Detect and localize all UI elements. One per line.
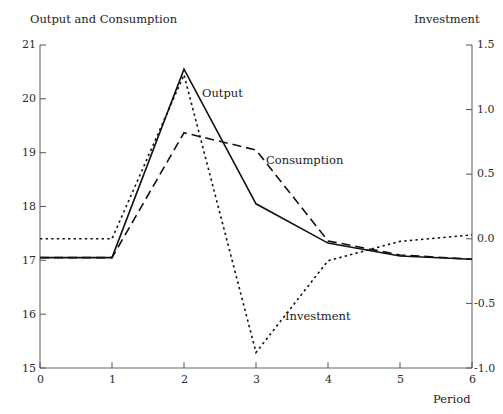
left-tick-16: 16 (22, 309, 36, 320)
right-axis-ticks (466, 45, 472, 368)
axis-lines (40, 45, 472, 368)
x-tick-4: 4 (325, 374, 332, 385)
series-label-consumption: Consumption (266, 155, 343, 167)
x-axis-ticks (40, 362, 472, 368)
x-tick-2: 2 (181, 374, 188, 385)
left-tick-19: 19 (22, 147, 36, 158)
x-axis-title: Period (433, 394, 471, 406)
chart-figure: Output and Consumption Investment (0, 0, 503, 414)
left-tick-20: 20 (22, 93, 36, 104)
left-tick-17: 17 (22, 255, 36, 266)
right-tick-neg-0-5: -0.5 (474, 298, 495, 309)
chart-canvas (0, 0, 503, 414)
left-tick-15: 15 (22, 363, 36, 374)
right-tick-1-5: 1.5 (477, 39, 495, 50)
x-tick-0: 0 (37, 374, 44, 385)
x-tick-5: 5 (397, 374, 404, 385)
right-tick-0-5: 0.5 (477, 168, 495, 179)
series-line-consumption (40, 133, 472, 260)
left-tick-18: 18 (22, 201, 36, 212)
x-tick-6: 6 (469, 374, 476, 385)
right-tick-neg-1-0: -1.0 (474, 363, 495, 374)
x-tick-1: 1 (109, 374, 116, 385)
right-tick-1-0: 1.0 (477, 104, 495, 115)
series-line-output (40, 69, 472, 259)
right-tick-0-0: 0.0 (477, 233, 495, 244)
series-label-output: Output (202, 88, 243, 100)
x-tick-3: 3 (253, 374, 260, 385)
series-line-investment (40, 75, 472, 353)
left-tick-21: 21 (22, 39, 36, 50)
series-label-investment: Investment (285, 311, 351, 323)
left-axis-ticks (40, 45, 46, 368)
